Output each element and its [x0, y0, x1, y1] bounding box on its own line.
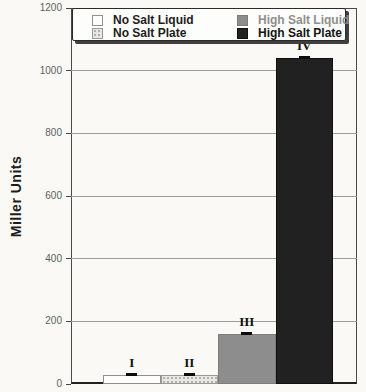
bar-III-high-salt-liquid: [218, 334, 276, 384]
bar-label-III: III: [218, 315, 276, 329]
y-tick-label-200: 200: [0, 316, 62, 326]
legend-label: High Salt Plate: [258, 27, 342, 39]
error-bar-III: [241, 332, 252, 335]
error-bar-I: [126, 373, 137, 376]
y-tick-mark-600: [66, 196, 71, 197]
legend-swatch-stipple-icon: [92, 28, 103, 39]
y-tick-label-1200: 1200: [0, 3, 62, 13]
bar-label-IV: IV: [276, 39, 334, 53]
bar-chart-figure: 020040060080010001200 IIIIIIIV Miller Un…: [0, 0, 366, 392]
bar-label-I: I: [103, 356, 161, 370]
legend-item-no-salt-plate: No Salt Plate: [92, 27, 186, 39]
y-axis-title: Miller Units: [8, 97, 25, 297]
bar-II-no-salt-plate: [161, 375, 219, 384]
y-tick-mark-800: [66, 133, 71, 134]
y-tick-mark-1200: [66, 8, 71, 9]
legend-label: No Salt Liquid: [113, 14, 194, 26]
y-tick-mark-1000: [66, 70, 71, 71]
y-tick-label-1000: 1000: [0, 66, 62, 76]
legend-swatch-black-icon: [237, 28, 248, 39]
y-tick-mark-400: [66, 258, 71, 259]
legend-swatch-gray-icon: [237, 15, 248, 26]
y-tick-mark-0: [66, 384, 71, 385]
error-bar-IV: [299, 56, 310, 59]
y-tick-label-0: 0: [0, 379, 62, 389]
legend-label: No Salt Plate: [113, 27, 186, 39]
bar-label-II: II: [161, 356, 219, 370]
legend-swatch-white-icon: [92, 15, 103, 26]
error-bar-II: [184, 373, 195, 376]
legend: No Salt LiquidNo Salt PlateHigh Salt Liq…: [72, 8, 346, 41]
y-tick-mark-200: [66, 321, 71, 322]
bar-IV-high-salt-plate: [276, 58, 334, 384]
legend-item-no-salt-liquid: No Salt Liquid: [92, 14, 194, 26]
legend-item-high-salt-liquid: High Salt Liquid: [237, 14, 349, 26]
bar-I-no-salt-liquid: [103, 375, 161, 384]
legend-label: High Salt Liquid: [258, 14, 349, 26]
legend-item-high-salt-plate: High Salt Plate: [237, 27, 342, 39]
